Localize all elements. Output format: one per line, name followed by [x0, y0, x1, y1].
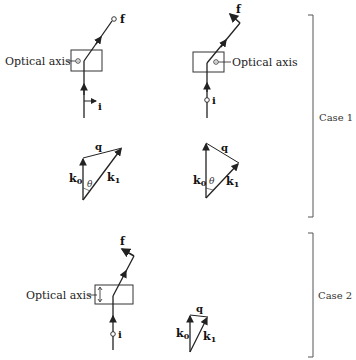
case2-label: Case 2: [318, 290, 352, 301]
case2-bracket: Case 2: [308, 233, 352, 357]
incident-polarization-circle-icon: [111, 332, 116, 337]
case1-left-wavevector-triangle: k0 q k1 θ: [69, 141, 122, 200]
k1-label: k1: [226, 175, 239, 189]
optical-axis-label: Optical axis: [26, 289, 92, 302]
q-label: q: [221, 142, 228, 153]
diagram-canvas: f Optical axis i f Optical axis i k0 q k…: [0, 0, 356, 360]
case1-left-beam-diagram: f Optical axis i: [5, 13, 126, 118]
incident-label: i: [118, 329, 122, 340]
case2-wavevector-triangle: k0 q k1: [176, 303, 216, 352]
case1-right-beam-diagram: f Optical axis i: [193, 3, 298, 118]
incident-label: i: [212, 95, 216, 106]
final-label: f: [120, 235, 126, 248]
case1-bracket: Case 1: [308, 15, 353, 217]
final-polarization-arrow-icon: [122, 249, 134, 256]
k0-label: k0: [176, 327, 190, 341]
case1-right-wavevector-triangle: k0 q k1 θ: [193, 142, 239, 198]
k1-label: k1: [203, 330, 216, 344]
final-polarization-circle-icon: [112, 17, 117, 22]
case2-beam-diagram: f Optical axis i: [26, 235, 134, 350]
theta-label: θ: [209, 176, 215, 186]
optical-axis-label: Optical axis: [5, 55, 71, 68]
final-label: f: [236, 3, 242, 16]
optical-axis-label: Optical axis: [232, 56, 298, 69]
theta-label: θ: [87, 179, 93, 189]
incident-label: i: [98, 101, 102, 112]
q-label: q: [196, 303, 203, 314]
k0-label: k0: [193, 174, 207, 188]
k1-label: k1: [107, 171, 120, 185]
case1-label: Case 1: [319, 112, 353, 123]
k0-label: k0: [69, 172, 83, 186]
final-label: f: [120, 13, 126, 26]
q-vector: [190, 315, 208, 317]
incident-polarization-circle-icon: [205, 98, 210, 103]
q-label: q: [95, 141, 102, 152]
